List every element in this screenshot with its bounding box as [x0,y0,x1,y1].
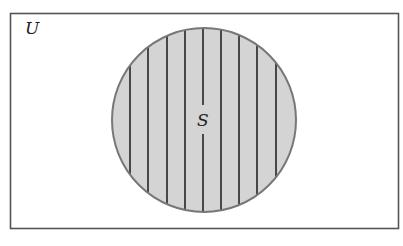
set-s-label: S [197,110,209,130]
universe-label: U [25,18,40,38]
venn-diagram: U S [0,0,403,246]
